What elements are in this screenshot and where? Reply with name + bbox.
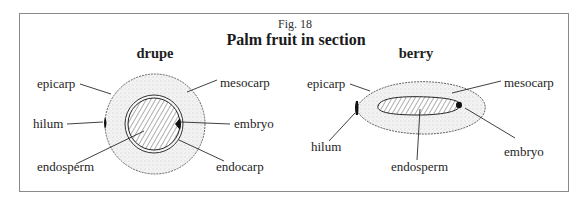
berry-label-mesocarp: mesocarp (504, 75, 554, 90)
berry-embryo-mark (456, 102, 462, 108)
drupe-diagram: drupe epicarp hilum endosperm mesocarp e… (33, 45, 274, 174)
berry-label-hilum: hilum (311, 139, 341, 154)
berry-label-endosperm: endosperm (391, 159, 448, 174)
berry-endosperm-shape (378, 97, 460, 115)
berry-label-embryo: embryo (504, 144, 544, 159)
drupe-heading: drupe (136, 45, 174, 61)
drupe-label-endosperm: endosperm (37, 159, 94, 174)
drupe-endosperm-shape (128, 98, 180, 150)
berry-heading: berry (399, 45, 434, 61)
figure-number: Fig. 18 (278, 17, 312, 31)
figure-title: Palm fruit in section (226, 31, 365, 48)
berry-hilum-mark (355, 101, 359, 115)
drupe-label-epicarp: epicarp (37, 76, 75, 91)
drupe-label-embryo: embryo (234, 116, 274, 131)
palm-fruit-diagram: Fig. 18 Palm fruit in section drupe epic… (0, 0, 587, 202)
drupe-label-mesocarp: mesocarp (220, 75, 270, 90)
berry-label-epicarp: epicarp (307, 76, 345, 91)
drupe-label-endocarp: endocarp (216, 159, 264, 174)
berry-diagram: berry epicarp hilum endosperm mesocarp e… (307, 45, 554, 174)
drupe-label-hilum: hilum (33, 116, 63, 131)
